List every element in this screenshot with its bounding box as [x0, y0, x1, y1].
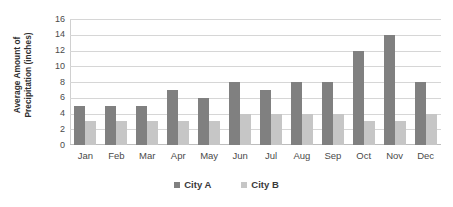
bar-city-b-mar[interactable]	[147, 121, 158, 145]
y-axis-tick-label: 14	[55, 30, 65, 39]
y-axis-tick-label: 8	[60, 78, 65, 87]
y-axis-tick-label: 10	[55, 62, 65, 71]
bar-city-a-aug[interactable]	[291, 82, 302, 145]
bar-city-a-sep[interactable]	[322, 82, 333, 145]
chart-legend: City ACity B	[0, 180, 453, 190]
bar-group	[132, 19, 163, 145]
x-axis-tick-labels: JanFebMarAprMayJunJulAugSepOctNovDec	[70, 149, 441, 165]
bar-city-b-oct[interactable]	[364, 121, 375, 145]
bar-group	[256, 19, 287, 145]
bar-city-a-oct[interactable]	[353, 51, 364, 146]
bar-city-a-jul[interactable]	[260, 90, 271, 145]
x-axis-tick-label: Mar	[132, 149, 163, 165]
bar-group	[225, 19, 256, 145]
plot-area	[70, 19, 441, 145]
x-axis-tick-label: Dec	[410, 149, 441, 165]
x-axis-tick-label: Apr	[163, 149, 194, 165]
bar-city-b-jan[interactable]	[85, 121, 96, 145]
x-axis-tick-label: Jul	[256, 149, 287, 165]
y-axis-tick-label: 4	[60, 109, 65, 118]
y-axis-tick-label: 6	[60, 93, 65, 102]
y-axis-tick-label: 2	[60, 125, 65, 134]
y-axis-title-line2: Precipitation (inches)	[23, 32, 34, 117]
x-axis-tick-label: Jun	[225, 149, 256, 165]
legend-swatch-icon	[241, 182, 247, 188]
bar-group	[317, 19, 348, 145]
legend-item-city-a[interactable]: City A	[174, 180, 211, 190]
x-axis-tick-label: Aug	[286, 149, 317, 165]
bar-group	[379, 19, 410, 145]
bar-city-a-nov[interactable]	[384, 35, 395, 145]
bar-city-b-jun[interactable]	[240, 114, 251, 146]
bar-group	[410, 19, 441, 145]
y-axis-tick-label: 12	[55, 46, 65, 55]
x-axis-tick-label: Jan	[70, 149, 101, 165]
bar-city-a-apr[interactable]	[167, 90, 178, 145]
legend-item-city-b[interactable]: City B	[241, 180, 278, 190]
bar-group	[163, 19, 194, 145]
bar-city-b-feb[interactable]	[116, 121, 127, 145]
bar-group	[348, 19, 379, 145]
bar-city-b-jul[interactable]	[271, 114, 282, 146]
bar-groups	[70, 19, 441, 145]
precipitation-bar-chart: Average Amount of Precipitation (inches)…	[0, 0, 453, 207]
bar-city-a-dec[interactable]	[415, 82, 426, 145]
bar-city-b-nov[interactable]	[395, 121, 406, 145]
x-axis-tick-label: Feb	[101, 149, 132, 165]
bar-group	[101, 19, 132, 145]
bar-city-b-sep[interactable]	[333, 114, 344, 146]
bar-city-a-mar[interactable]	[136, 106, 147, 145]
bar-group	[286, 19, 317, 145]
y-axis-tick-label: 0	[60, 141, 65, 150]
y-axis-tick-label: 16	[55, 15, 65, 24]
legend-label: City A	[184, 180, 211, 190]
bar-city-b-aug[interactable]	[302, 114, 313, 146]
bar-city-a-feb[interactable]	[105, 106, 116, 145]
x-axis-tick-label: Oct	[348, 149, 379, 165]
bar-city-a-jan[interactable]	[74, 106, 85, 145]
x-axis-tick-label: May	[194, 149, 225, 165]
bar-city-a-may[interactable]	[198, 98, 209, 145]
bar-city-b-dec[interactable]	[426, 114, 437, 146]
bar-group	[194, 19, 225, 145]
y-axis-title: Average Amount of Precipitation (inches)	[0, 0, 46, 150]
legend-swatch-icon	[174, 182, 180, 188]
bar-city-a-jun[interactable]	[229, 82, 240, 145]
y-axis-tick-labels: 1614121086420	[44, 0, 68, 160]
x-axis-tick-label: Sep	[317, 149, 348, 165]
legend-label: City B	[251, 180, 278, 190]
bar-group	[70, 19, 101, 145]
bar-city-b-apr[interactable]	[178, 121, 189, 145]
x-axis-tick-label: Nov	[379, 149, 410, 165]
bar-city-b-may[interactable]	[209, 121, 220, 145]
y-axis-title-line1: Average Amount of	[12, 32, 23, 117]
